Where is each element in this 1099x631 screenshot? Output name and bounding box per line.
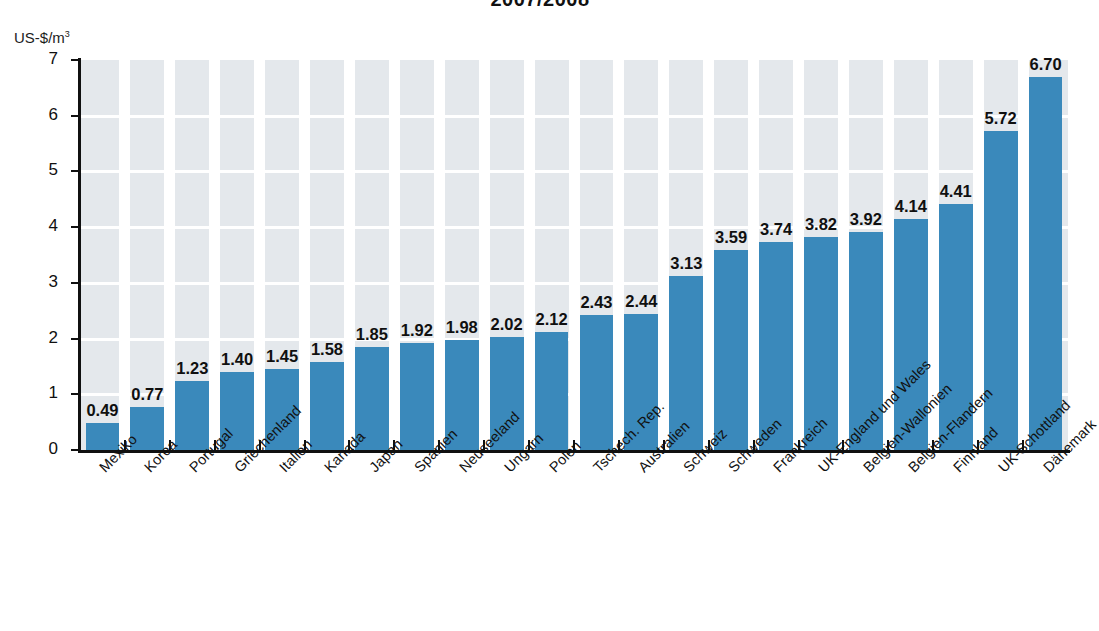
y-axis-tick-label: 0: [18, 439, 58, 459]
gridline-vertical: [434, 60, 445, 450]
bar-value-label: 3.13: [656, 254, 716, 273]
gridline-vertical: [254, 60, 265, 450]
y-axis-tick: [71, 226, 80, 228]
y-axis-tick: [71, 115, 80, 117]
y-axis-tick-label: 4: [18, 216, 58, 236]
gridline-vertical: [344, 60, 355, 450]
y-axis-unit-text: US-$/m: [14, 29, 65, 46]
y-axis-unit-exponent: 3: [65, 29, 70, 39]
bar[interactable]: [1029, 77, 1063, 450]
bar-value-label: 0.77: [117, 385, 177, 404]
gridline-vertical: [569, 60, 580, 450]
y-axis-tick: [71, 393, 80, 395]
y-axis-tick-label: 5: [18, 160, 58, 180]
y-axis-tick-label: 7: [18, 49, 58, 69]
bar-value-label: 4.41: [926, 182, 986, 201]
gridline-vertical: [209, 60, 220, 450]
y-axis-tick: [71, 338, 80, 340]
bar[interactable]: [580, 315, 614, 450]
y-axis-tick-label: 3: [18, 272, 58, 292]
bar[interactable]: [310, 362, 344, 450]
y-axis-tick-label: 2: [18, 328, 58, 348]
gridline-vertical: [748, 60, 759, 450]
bar[interactable]: [400, 343, 434, 450]
gridline-vertical: [524, 60, 535, 450]
y-axis-tick: [71, 282, 80, 284]
gridline-vertical: [838, 60, 849, 450]
gridline-vertical: [389, 60, 400, 450]
y-axis-tick-label: 6: [18, 105, 58, 125]
y-axis-tick: [71, 449, 80, 451]
y-axis-tick: [71, 59, 80, 61]
bar-value-label: 5.72: [971, 109, 1031, 128]
y-axis-tick-label: 1: [18, 383, 58, 403]
bar-value-label: 2.44: [611, 292, 671, 311]
bar[interactable]: [535, 332, 569, 450]
bar-value-label: 6.70: [1016, 55, 1076, 74]
gridline-vertical: [793, 60, 804, 450]
gridline-vertical: [479, 60, 490, 450]
bar-value-label: 2.12: [522, 310, 582, 329]
bar[interactable]: [714, 250, 748, 450]
bar[interactable]: [175, 381, 209, 450]
gridline-vertical: [613, 60, 624, 450]
gridline-vertical: [299, 60, 310, 450]
y-axis-tick: [71, 170, 80, 172]
y-axis-unit-label: US-$/m3: [14, 29, 70, 46]
chart-title: 2007/2008: [0, 0, 1080, 11]
